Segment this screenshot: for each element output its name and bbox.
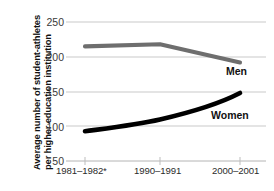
series-label-women: Women	[211, 109, 249, 121]
x-axis-tick-labels: 1981–1982* 1990–1991 2000–2001	[0, 165, 274, 181]
footnote-text	[2, 184, 274, 191]
y-tick-250: 250	[38, 17, 64, 28]
y-axis-tick-labels: 250 200 150 100 50	[34, 0, 64, 191]
chart-container: Average number of student-athletes per h…	[0, 0, 274, 191]
plot-area: Men Women	[66, 14, 266, 168]
gridlines	[66, 22, 266, 161]
plot-svg	[66, 14, 266, 168]
x-tick-1990-1991: 1990–1991	[134, 165, 181, 176]
y-tick-150: 150	[38, 87, 64, 98]
y-tick-100: 100	[38, 122, 64, 133]
y-axis-title: Average number of student-athletes per h…	[0, 0, 34, 172]
x-tick-1981-1982: 1981–1982*	[56, 165, 107, 176]
y-tick-200: 200	[38, 52, 64, 63]
series-label-men: Men	[226, 65, 247, 77]
x-tick-2000-2001: 2000–2001	[212, 165, 259, 176]
series-line-men	[85, 44, 240, 62]
